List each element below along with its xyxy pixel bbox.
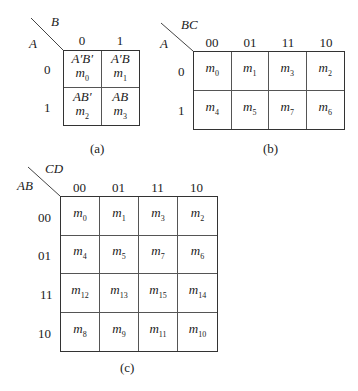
kmap-grid: A′B′m0 A′Bm1 AB′m2 ABm3 xyxy=(63,50,140,126)
kmap-cell: m2 xyxy=(307,52,345,91)
kmap-cell: m7 xyxy=(139,236,178,275)
col-var-label: BC xyxy=(181,17,198,33)
minterm-label: m10 xyxy=(189,322,206,342)
minterm-label: m6 xyxy=(319,100,332,120)
col-label: 01 xyxy=(231,35,269,51)
minterm-label: m3 xyxy=(151,206,164,226)
col-label: 10 xyxy=(177,180,216,196)
minterm-label: m2 xyxy=(76,104,89,124)
minterm-label: m6 xyxy=(191,244,204,264)
col-var-label: CD xyxy=(45,161,63,177)
minterm-label: m13 xyxy=(110,283,127,303)
term-label: A′B′ xyxy=(71,52,93,66)
minterm-label: m11 xyxy=(149,322,166,342)
row-var-label: A xyxy=(29,36,37,52)
col-label: 11 xyxy=(269,35,307,51)
col-label: 10 xyxy=(307,35,345,51)
row-var-label: AB xyxy=(17,178,33,194)
kmap-cell: m14 xyxy=(178,274,217,313)
kmap-cell: m10 xyxy=(178,313,217,352)
col-label: 00 xyxy=(60,180,99,196)
kmap-cell: m0 xyxy=(61,197,100,236)
minterm-label: m1 xyxy=(243,61,256,81)
minterm-label: m1 xyxy=(114,66,127,86)
minterm-label: m0 xyxy=(76,66,89,86)
col-label: 01 xyxy=(99,180,138,196)
minterm-label: m9 xyxy=(112,322,125,342)
kmap-cell: m6 xyxy=(178,236,217,275)
kmap-cell: AB′m2 xyxy=(64,88,102,125)
kmap-cell: m11 xyxy=(139,313,178,352)
row-var-label: A xyxy=(160,36,168,52)
caption: (b) xyxy=(263,141,278,157)
minterm-label: m4 xyxy=(206,100,219,120)
term-label: AB xyxy=(112,90,128,104)
col-label: 0 xyxy=(63,33,101,49)
minterm-label: m2 xyxy=(319,61,332,81)
row-label: 1 xyxy=(178,103,185,119)
kmap-grid: m0 m1 m3 m2 m4 m5 m7 m6 m12 m13 m15 m14 … xyxy=(60,196,218,352)
minterm-label: m14 xyxy=(189,283,206,303)
row-label: 0 xyxy=(44,62,51,78)
col-var-label: B xyxy=(51,14,59,30)
kmap-cell: m2 xyxy=(178,197,217,236)
minterm-label: m7 xyxy=(281,100,294,120)
kmap-cell: m4 xyxy=(61,236,100,275)
col-label: 00 xyxy=(193,35,231,51)
kmap-cell: m8 xyxy=(61,313,100,352)
row-label: 10 xyxy=(38,326,51,342)
kmap-cell: m5 xyxy=(100,236,139,275)
caption: (c) xyxy=(120,360,134,376)
minterm-label: m3 xyxy=(281,61,294,81)
minterm-label: m0 xyxy=(73,206,86,226)
term-label: AB′ xyxy=(73,90,92,104)
minterm-label: m8 xyxy=(73,322,86,342)
kmap-cell: m1 xyxy=(232,52,270,91)
kmap-cell: m1 xyxy=(100,197,139,236)
kmap-cell: A′Bm1 xyxy=(102,51,140,88)
kmap-cell: m6 xyxy=(307,91,345,130)
minterm-label: m3 xyxy=(114,104,127,124)
kmap-cell: m15 xyxy=(139,274,178,313)
minterm-label: m5 xyxy=(112,244,125,264)
row-label: 00 xyxy=(38,210,51,226)
minterm-label: m5 xyxy=(243,100,256,120)
kmap-cell: m3 xyxy=(139,197,178,236)
row-label: 1 xyxy=(44,100,51,116)
kmap-cell: ABm3 xyxy=(102,88,140,125)
kmap-cell: A′B′m0 xyxy=(64,51,102,88)
kmap-cell: m7 xyxy=(269,91,307,130)
minterm-label: m2 xyxy=(191,206,204,226)
minterm-label: m1 xyxy=(112,206,125,226)
minterm-label: m0 xyxy=(206,61,219,81)
kmap-grid: m0 m1 m3 m2 m4 m5 m7 m6 xyxy=(193,51,345,130)
kmap-cell: m12 xyxy=(61,274,100,313)
kmap-cell: m5 xyxy=(232,91,270,130)
row-label: 11 xyxy=(40,287,53,303)
row-label: 01 xyxy=(38,248,51,264)
kmap-cell: m9 xyxy=(100,313,139,352)
kmap-cell: m3 xyxy=(269,52,307,91)
caption: (a) xyxy=(90,141,104,157)
kmap-cell: m13 xyxy=(100,274,139,313)
term-label: A′B xyxy=(111,52,130,66)
minterm-label: m7 xyxy=(151,244,164,264)
minterm-label: m4 xyxy=(73,244,86,264)
col-label: 11 xyxy=(138,180,177,196)
minterm-label: m12 xyxy=(71,283,88,303)
col-label: 1 xyxy=(101,33,139,49)
kmap-cell: m4 xyxy=(194,91,232,130)
row-label: 0 xyxy=(178,64,185,80)
kmap-cell: m0 xyxy=(194,52,232,91)
minterm-label: m15 xyxy=(149,283,166,303)
